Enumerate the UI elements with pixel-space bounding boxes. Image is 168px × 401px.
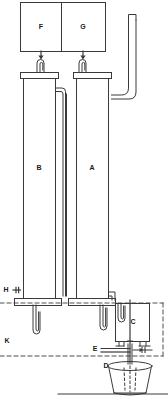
bypass-pipe-inner bbox=[112, 20, 137, 99]
label-enclosure-k: K bbox=[4, 337, 9, 344]
collector-utube-inner bbox=[121, 304, 124, 319]
right-flow-arrow-head bbox=[80, 56, 85, 60]
label-funnel-d: D bbox=[103, 362, 108, 369]
label-column-right: A bbox=[89, 164, 94, 171]
collector-internal-utube bbox=[118, 304, 125, 322]
reservoir-group bbox=[21, 3, 106, 52]
inter-column-tube bbox=[56, 88, 67, 296]
label-reservoir-right: G bbox=[80, 23, 86, 30]
siphon-tube-group bbox=[37, 60, 86, 73]
label-valve-e: E bbox=[93, 345, 98, 352]
bypass-pipe-top bbox=[129, 15, 137, 21]
reservoir-outlet-arrows bbox=[38, 51, 85, 59]
bypass-pipe-group bbox=[112, 15, 137, 100]
diagram-canvas: F G B A H K C E D bbox=[0, 0, 168, 401]
label-column-left: B bbox=[36, 164, 41, 171]
bypass-pipe-outer bbox=[112, 20, 129, 95]
enclosure-k bbox=[0, 303, 163, 356]
label-valve-h: H bbox=[3, 286, 8, 293]
valve-h-group bbox=[13, 287, 21, 292]
valve-e-group bbox=[101, 348, 152, 353]
right-column-body bbox=[77, 79, 109, 299]
column-cap-group bbox=[21, 73, 112, 79]
left-drain-utube-inner bbox=[36, 305, 39, 331]
right-siphon-tube-inner bbox=[82, 62, 85, 72]
right-drain-utube-inner bbox=[103, 305, 106, 327]
left-flow-arrow-head bbox=[38, 56, 43, 60]
drain-tube-group bbox=[33, 305, 107, 334]
left-base-plate bbox=[15, 299, 62, 306]
left-column-cap bbox=[21, 73, 59, 79]
label-collector-c: C bbox=[130, 318, 135, 325]
right-base-plate bbox=[69, 299, 116, 306]
base-plate-group bbox=[15, 299, 116, 306]
right-column-cap bbox=[74, 73, 112, 79]
inter-column-tube-inner bbox=[56, 92, 64, 297]
apparatus-schematic: F G B A H K C E D bbox=[0, 0, 168, 401]
left-column-body bbox=[24, 79, 56, 299]
left-siphon-tube-inner bbox=[40, 62, 43, 72]
inter-column-tube-outer bbox=[56, 88, 66, 296]
stand-pipe-group bbox=[128, 300, 133, 364]
label-reservoir-left: F bbox=[39, 23, 44, 30]
funnel-inner-stream bbox=[124, 366, 136, 392]
